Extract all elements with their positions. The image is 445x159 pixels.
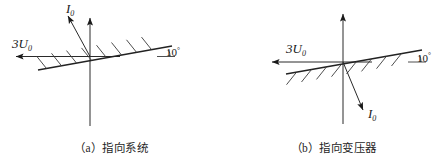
diagram-panel-a: 3U0 I0 10° （a）指向系统 <box>0 0 222 159</box>
voltage-label-b: 3U0 <box>285 41 306 58</box>
angle-label-b: 10° <box>417 51 431 64</box>
current-phasor-a <box>68 16 90 57</box>
angle-label-a: 10° <box>166 46 180 59</box>
phasor-diagram-a: 3U0 I0 10° <box>0 0 222 159</box>
caption-b: （b）指向变压器 <box>222 139 445 155</box>
diagram-panel-b: 3U0 I0 10° （b）指向变压器 <box>222 0 445 159</box>
current-phasor-b <box>343 62 363 110</box>
figure-root: 3U0 I0 10° （a）指向系统 <box>0 0 445 159</box>
caption-a: （a）指向系统 <box>0 139 222 155</box>
hatch-group-b <box>287 54 402 85</box>
current-label-b: I0 <box>367 106 376 123</box>
phasor-diagram-b: 3U0 I0 10° <box>222 0 445 159</box>
boundary-line-a <box>38 46 172 70</box>
current-label-a: I0 <box>65 1 74 18</box>
voltage-label-a: 3U0 <box>11 36 32 53</box>
